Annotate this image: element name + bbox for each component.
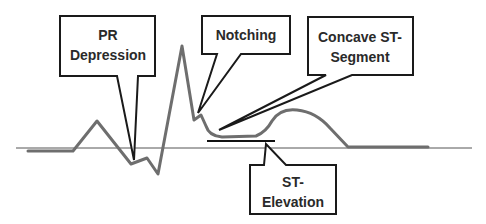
ecg-diagram: PR Depression Notching Concave ST- Segme… <box>0 0 486 224</box>
callout-concave-st-line-2: Segment <box>330 49 389 65</box>
callout-st-elevation-line-1: ST- <box>282 174 304 190</box>
callout-pr-depression-line-2: Depression <box>70 47 146 63</box>
callout-pr-depression-line-1: PR <box>98 27 117 43</box>
callout-pr-depression: PR Depression <box>60 16 155 160</box>
ecg-svg: PR Depression Notching Concave ST- Segme… <box>0 0 486 224</box>
callout-st-elevation: ST- Elevation <box>250 144 336 214</box>
callout-st-elevation-line-2: Elevation <box>262 194 324 210</box>
callout-notching: Notching <box>198 16 290 113</box>
callout-concave-st-line-1: Concave ST- <box>318 29 402 45</box>
callout-notching-label: Notching <box>216 27 277 43</box>
